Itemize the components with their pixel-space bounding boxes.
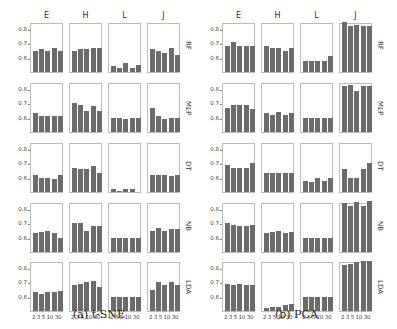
y-tick-label: 0.7 — [13, 220, 27, 226]
bar — [45, 116, 50, 132]
subplot-lda-h — [69, 262, 102, 312]
bar — [58, 175, 63, 192]
bar — [270, 115, 275, 132]
bar — [130, 238, 135, 252]
y-tick-label: 0.6 — [13, 235, 27, 241]
bar — [156, 51, 161, 72]
bar — [367, 163, 372, 192]
bar — [78, 49, 83, 72]
bar — [250, 225, 255, 252]
bar — [348, 26, 353, 72]
column-title: J — [147, 11, 181, 20]
subplot-dt-l — [300, 143, 333, 193]
bar — [231, 168, 236, 192]
bar — [72, 103, 77, 132]
y-tick-label: 0.6 — [205, 294, 219, 300]
bar — [39, 178, 44, 192]
bar — [367, 26, 372, 72]
column-title: J — [339, 11, 373, 20]
bar — [169, 118, 174, 132]
subplot-lda-l — [300, 262, 333, 312]
bar — [309, 118, 314, 132]
bar — [225, 284, 230, 311]
y-tick-label: 0.7 — [205, 160, 219, 166]
bar — [33, 113, 38, 132]
bar — [33, 292, 38, 311]
row-label: MLP — [184, 101, 192, 115]
bar — [264, 173, 269, 192]
bar — [111, 189, 116, 192]
bar — [123, 63, 128, 72]
subplot-nb-j — [339, 203, 372, 253]
bar — [150, 175, 155, 192]
y-tick-label: 0.8 — [205, 146, 219, 152]
bar — [52, 116, 57, 132]
bar — [270, 173, 275, 192]
y-tick-label: 0.8 — [205, 265, 219, 271]
caption-pca: (b) PCA — [275, 308, 318, 321]
bar — [342, 169, 347, 192]
bar — [162, 119, 167, 132]
subplot-nb-h — [261, 203, 294, 253]
bar — [244, 226, 249, 252]
y-tick-label: 0.8 — [13, 206, 27, 212]
bar — [150, 49, 155, 72]
subplot-mlp-l — [300, 83, 333, 133]
column-title: H — [69, 11, 103, 20]
bar — [348, 264, 353, 311]
x-tick-labels: 2 3 5 10 30 — [341, 314, 370, 320]
bar — [250, 109, 255, 132]
subplot-lda-j — [147, 262, 180, 312]
subplot-rf-l — [108, 23, 141, 73]
bar — [162, 285, 167, 311]
row-label: DT — [376, 161, 384, 171]
y-tick-label: 0.8 — [205, 86, 219, 92]
bar — [283, 51, 288, 72]
bar — [72, 223, 77, 252]
subplot-nb-e — [222, 203, 255, 253]
bar — [117, 68, 122, 72]
bar — [225, 223, 230, 252]
subplot-nb-j — [147, 203, 180, 253]
bar — [354, 91, 359, 132]
y-tick-label: 0.7 — [13, 279, 27, 285]
bar — [348, 85, 353, 132]
bar — [52, 179, 57, 192]
bar — [250, 285, 255, 311]
bar — [91, 48, 96, 72]
bar — [175, 285, 180, 311]
bar — [136, 65, 141, 72]
bar — [97, 111, 102, 132]
y-tick-label: 0.7 — [205, 220, 219, 226]
bar — [328, 118, 333, 132]
subplot-rf-h — [261, 23, 294, 73]
x-tick-labels: 2 3 5 10 30 — [224, 314, 253, 320]
bar — [361, 26, 366, 72]
row-label: MLP — [376, 101, 384, 115]
bar — [328, 56, 333, 72]
bar — [237, 46, 242, 72]
bar — [52, 292, 57, 311]
bar — [348, 178, 353, 192]
bar — [225, 108, 230, 132]
bar — [84, 111, 89, 132]
bar — [354, 25, 359, 72]
column-title: L — [108, 11, 142, 20]
bar — [123, 119, 128, 132]
bar — [33, 51, 38, 72]
bar — [283, 115, 288, 132]
bar — [231, 105, 236, 132]
subplot-nb-l — [108, 203, 141, 253]
y-tick-label: 0.6 — [13, 175, 27, 181]
bar — [156, 282, 161, 311]
row-label: LDA — [376, 280, 384, 294]
bar — [315, 238, 320, 252]
subplot-mlp-e — [30, 83, 63, 133]
subplot-nb-e — [30, 203, 63, 253]
bar — [175, 175, 180, 192]
bar — [84, 49, 89, 72]
bar — [250, 163, 255, 192]
subplot-rf-h — [69, 23, 102, 73]
bar — [111, 118, 116, 132]
bar — [276, 112, 281, 132]
